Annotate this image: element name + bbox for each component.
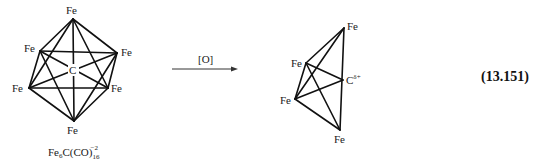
fe-lower-left-label: Fe — [12, 82, 23, 94]
reaction-arrow — [172, 67, 238, 72]
reactant-formula: Fe6C(CO)16−2 — [48, 144, 100, 161]
product-cluster — [295, 28, 344, 130]
fe-lower-right-label: Fe — [111, 82, 122, 94]
product-fe-upper-left-label: Fe — [291, 57, 302, 69]
reaction-scheme: Fe Fe Fe Fe Fe Fe C Fe6C(CO)16−2 [O] Fe … — [0, 0, 535, 162]
product-fe-left-label: Fe — [280, 94, 291, 106]
fe-upper-left-label: Fe — [24, 42, 35, 54]
equation-number: (13.151) — [481, 69, 529, 85]
oxidant-label: [O] — [198, 53, 213, 65]
product-fe-bottom-label: Fe — [334, 133, 345, 145]
product-fe-top-label: Fe — [347, 20, 358, 32]
central-carbon-label: C — [69, 64, 76, 76]
fe-top-label: Fe — [66, 4, 77, 16]
product-carbon-label: Cδ+ — [346, 73, 361, 86]
fe-bottom-label: Fe — [67, 124, 78, 136]
fe-upper-right-label: Fe — [121, 46, 132, 58]
